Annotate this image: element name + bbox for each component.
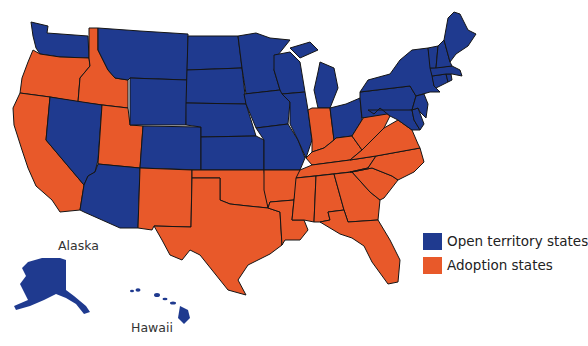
- legend: Open territory states Adoption states: [423, 229, 588, 277]
- state-CO[interactable]: [140, 126, 201, 170]
- legend-label: Adoption states: [447, 257, 553, 273]
- hawaii-label: Hawaii: [131, 320, 173, 335]
- state-WY[interactable]: [130, 78, 187, 125]
- state-WA[interactable]: [31, 22, 89, 58]
- state-FL[interactable]: [320, 210, 400, 284]
- open-territory-swatch: [423, 233, 442, 250]
- adoption-swatch: [423, 257, 442, 274]
- state-MT[interactable]: [98, 28, 188, 80]
- state-ME[interactable]: [444, 12, 476, 62]
- state-ND[interactable]: [187, 36, 242, 70]
- state-SD[interactable]: [186, 68, 246, 104]
- state-NM[interactable]: [138, 168, 192, 230]
- state-MS[interactable]: [292, 176, 316, 222]
- legend-item-open-territory: Open territory states: [423, 229, 588, 253]
- legend-item-adoption: Adoption states: [423, 253, 588, 277]
- alaska-label: Alaska: [58, 238, 99, 253]
- state-AK[interactable]: [14, 258, 90, 314]
- state-HI[interactable]: [130, 288, 190, 324]
- state-KS[interactable]: [201, 136, 264, 170]
- legend-label: Open territory states: [447, 233, 588, 249]
